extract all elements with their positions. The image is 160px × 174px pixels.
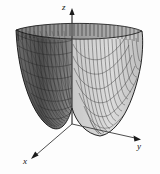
x-axis-arrow	[31, 152, 39, 160]
surface-plot-figure: z y x	[0, 0, 160, 174]
z-axis-label: z	[62, 3, 66, 12]
x-axis-label: x	[23, 157, 27, 166]
surface-body	[16, 22, 143, 136]
surface-plot-canvas	[0, 0, 160, 174]
y-axis-label: y	[137, 142, 141, 151]
z-axis-arrow	[69, 8, 74, 15]
